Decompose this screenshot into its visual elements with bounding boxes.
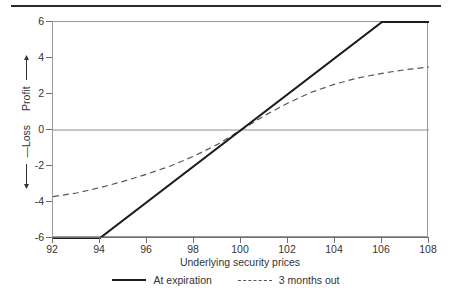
payoff-diagram-figure: 6420-2-4-6 —Loss Profit 92949698 xyxy=(0,0,452,296)
legend-swatch-solid-icon xyxy=(112,279,146,281)
x-tick-label: 100 xyxy=(220,244,260,255)
x-tick-label: 108 xyxy=(408,244,448,255)
x-tick-label: 104 xyxy=(314,244,354,255)
y-tick-label-text: -6 xyxy=(4,232,44,243)
x-axis-title: Underlying security prices xyxy=(52,256,428,268)
series-line-3-months-out xyxy=(53,67,429,197)
x-tick-label: 92 xyxy=(32,244,72,255)
x-tick-label: 96 xyxy=(126,244,166,255)
up-arrow-icon xyxy=(22,55,31,81)
x-tick-label: 102 xyxy=(267,244,307,255)
y-axis-title-profit-text: Profit xyxy=(20,86,32,111)
y-axis-title-profit-segment: Profit xyxy=(20,55,32,111)
legend-swatch-dashed-icon xyxy=(238,280,272,281)
y-axis-title: —Loss Profit xyxy=(18,27,34,217)
y-axis-title-loss-text: —Loss xyxy=(20,125,32,158)
y-axis-title-loss-segment: —Loss xyxy=(20,125,32,189)
x-tick-label: 98 xyxy=(173,244,213,255)
plot-area xyxy=(52,21,428,237)
chart-legend: At expiration 3 months out xyxy=(0,274,452,286)
legend-label-3-months-out: 3 months out xyxy=(279,274,340,286)
legend-item-at-expiration: At expiration xyxy=(112,274,211,286)
legend-label-at-expiration: At expiration xyxy=(153,274,211,286)
down-arrow-icon xyxy=(22,163,31,189)
y-tick-label-text: 6 xyxy=(4,16,44,27)
legend-item-3-months-out: 3 months out xyxy=(238,274,340,286)
plot-canvas xyxy=(53,22,429,238)
y-tick-label: -6 xyxy=(0,232,44,243)
y-tick-label: 6 xyxy=(0,16,44,27)
top-divider-rule xyxy=(11,5,441,7)
x-tick-label: 94 xyxy=(79,244,119,255)
x-tick-label: 106 xyxy=(361,244,401,255)
